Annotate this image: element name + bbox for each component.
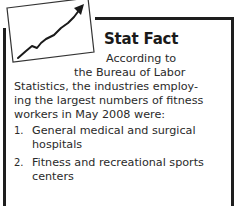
list-text: Fitness and recreational sports centers	[32, 156, 204, 183]
intro-line: Statistics, the industries employ-	[14, 80, 229, 94]
sidebar-right-border	[231, 17, 234, 206]
sidebar-top-border	[95, 17, 234, 20]
industry-list: 1. General medical and surgical hospital…	[14, 124, 229, 188]
list-item: 2. Fitness and recreational sports cente…	[14, 156, 229, 184]
intro-line: ing the largest numbers of fitness	[14, 94, 229, 108]
list-item: 1. General medical and surgical hospital…	[14, 124, 229, 152]
intro-line: workers in May 2008 were:	[14, 108, 229, 122]
list-text: General medical and surgical hospitals	[32, 124, 196, 151]
intro-line: the Bureau of Labor	[14, 66, 229, 80]
sidebar-title: Stat Fact	[104, 30, 178, 48]
list-number: 1.	[14, 124, 24, 138]
list-number: 2.	[14, 156, 24, 170]
intro-line: According to	[14, 52, 229, 66]
sidebar-intro: According to the Bureau of Labor Statist…	[14, 52, 229, 122]
